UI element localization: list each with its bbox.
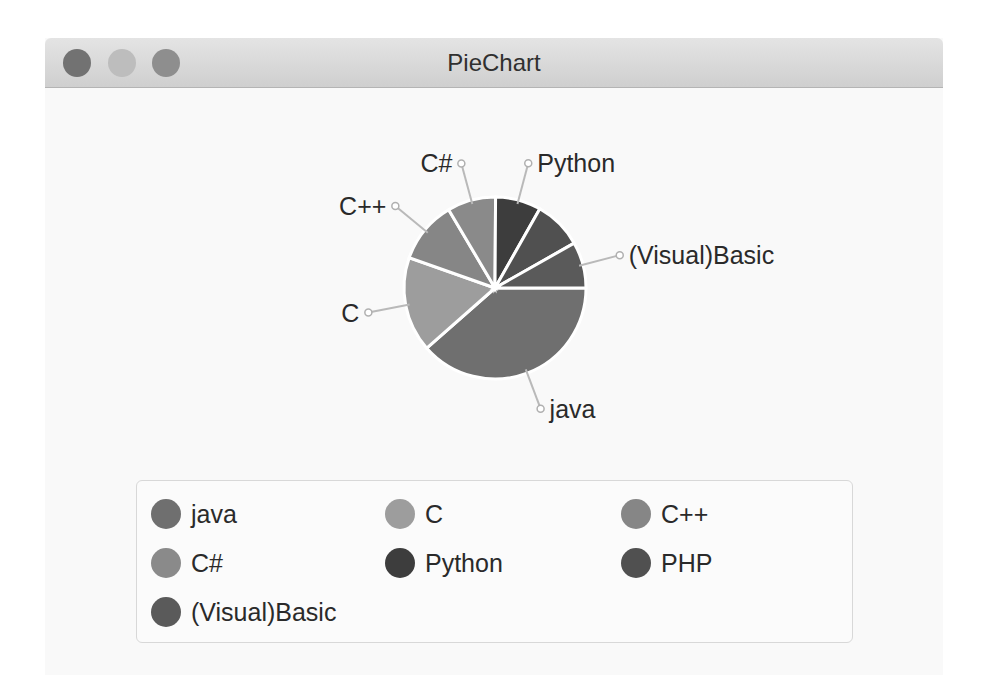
legend-item-php[interactable]: PHP <box>621 547 712 579</box>
legend-label: C++ <box>661 500 708 529</box>
label-leader-line <box>517 163 528 204</box>
legend-label: Python <box>425 549 503 578</box>
label-leader-line <box>526 369 541 408</box>
label-anchor-icon <box>365 309 372 316</box>
label-leader-line <box>395 206 427 233</box>
legend-item-visual-basic[interactable]: (Visual)Basic <box>151 596 336 628</box>
pie-slice-label: C <box>341 299 359 327</box>
legend-marker-icon <box>621 499 651 529</box>
label-anchor-icon <box>392 203 399 210</box>
legend-item-csharp[interactable]: C# <box>151 547 223 579</box>
pie-slice-label: Python <box>537 149 615 177</box>
label-anchor-icon <box>525 160 532 167</box>
legend-marker-icon <box>621 548 651 578</box>
pie-slice-label: java <box>549 395 596 423</box>
legend-item-c[interactable]: C <box>385 498 443 530</box>
legend-marker-icon <box>385 548 415 578</box>
legend-marker-icon <box>151 548 181 578</box>
legend-label: PHP <box>661 549 712 578</box>
legend-item-cpp[interactable]: C++ <box>621 498 708 530</box>
legend-item-python[interactable]: Python <box>385 547 503 579</box>
pie-slice-label: C++ <box>339 192 386 220</box>
legend-label: C <box>425 500 443 529</box>
label-leader-line <box>368 305 409 313</box>
legend-label: (Visual)Basic <box>191 598 336 627</box>
legend-label: C# <box>191 549 223 578</box>
pie-slices <box>404 197 586 379</box>
legend-marker-icon <box>385 499 415 529</box>
label-anchor-icon <box>616 252 623 259</box>
legend-label: java <box>191 500 237 529</box>
label-leader-line <box>579 255 620 266</box>
chart-legend: java C C++ C# Python PHP (Visual)Basic <box>136 480 853 643</box>
legend-marker-icon <box>151 499 181 529</box>
label-anchor-icon <box>458 160 465 167</box>
pie-slice-label: C# <box>420 149 452 177</box>
label-leader-line <box>461 163 472 204</box>
label-anchor-icon <box>537 405 544 412</box>
legend-item-java[interactable]: java <box>151 498 237 530</box>
pie-slice-label: (Visual)Basic <box>629 241 774 269</box>
legend-marker-icon <box>151 597 181 627</box>
